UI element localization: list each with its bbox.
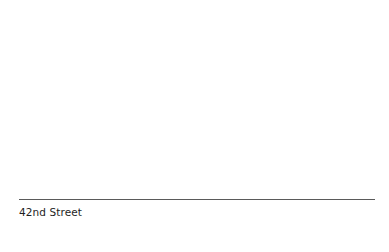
blank-content-area — [0, 0, 389, 199]
caption-text: 42nd Street — [19, 205, 82, 219]
divider-line — [19, 199, 375, 200]
